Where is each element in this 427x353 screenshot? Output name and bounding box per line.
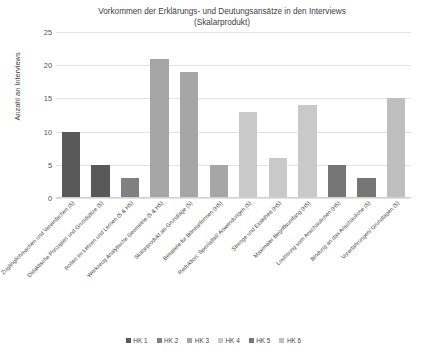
x-axis-label-text: Maximaler Begriffsumfang (H5) — [253, 200, 312, 259]
legend-item[interactable]: HK 1 — [126, 337, 148, 344]
legend-swatch-icon — [157, 338, 162, 343]
legend-label: HK 6 — [287, 337, 301, 344]
x-axis-labels: Zugänglichmachen und Vereinfachen (5)Did… — [56, 200, 411, 312]
y-axis-tick-label: 0 — [4, 194, 52, 203]
legend-item[interactable]: HK 5 — [249, 337, 271, 344]
chart-title-line-1: Vorkommen der Erklärungs- und Deutungsan… — [52, 6, 392, 17]
x-axis-label-text: Skalarprodukt als Grundlage (5) — [133, 200, 193, 260]
x-axis-label-text: Vorerfahrungen/ Grundlagen (5) — [340, 200, 400, 260]
legend-label: HK 4 — [226, 337, 240, 344]
chart-title-line-2: (Skalarprodukt) — [52, 17, 392, 28]
legend-item[interactable]: HK 2 — [157, 337, 179, 344]
legend-swatch-icon — [187, 338, 192, 343]
legend-swatch-icon — [279, 338, 284, 343]
plot-area: 0510152025 — [56, 32, 411, 198]
y-axis-tick-label: 5 — [4, 160, 52, 169]
legend-label: HK 5 — [256, 337, 270, 344]
chart-legend: HK 1HK 2HK 3HK 4HK 5HK 6 — [0, 337, 427, 344]
y-axis-title: Anzahl an Interviews — [13, 37, 22, 137]
legend-item[interactable]: HK 4 — [218, 337, 240, 344]
legend-swatch-icon — [126, 338, 131, 343]
y-axis-tick-label: 15 — [4, 94, 52, 103]
legend-item[interactable]: HK 3 — [187, 337, 209, 344]
legend-item[interactable]: HK 6 — [279, 337, 301, 344]
bar-series — [56, 32, 411, 198]
y-axis-tick-label: 20 — [4, 61, 52, 70]
legend-label: HK 3 — [195, 337, 209, 344]
x-axis-label-text: Loslösung vom Anschaulichen (H5) — [275, 200, 341, 266]
chart-title: Vorkommen der Erklärungs- und Deutungsan… — [52, 6, 392, 28]
y-axis-tick-label: 25 — [4, 28, 52, 37]
x-axis-label-text: Beispiele für Bilinearformen (H5) — [162, 200, 223, 261]
bar — [62, 132, 80, 198]
legend-label: HK 1 — [133, 337, 147, 344]
legend-label: HK 2 — [164, 337, 178, 344]
x-axis-label-text: Strenge und Exaktheit (H5) — [230, 200, 282, 252]
legend-swatch-icon — [218, 338, 223, 343]
bar-chart: Vorkommen der Erklärungs- und Deutungsan… — [0, 0, 427, 353]
x-axis-label-text: Bindung an das Anschauliche (5) — [309, 200, 371, 262]
legend-swatch-icon — [249, 338, 254, 343]
bar-slot — [56, 32, 86, 198]
y-axis-tick-label: 10 — [4, 127, 52, 136]
